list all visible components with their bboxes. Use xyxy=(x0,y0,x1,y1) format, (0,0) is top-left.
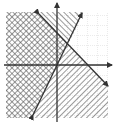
inequality-graph xyxy=(0,0,118,127)
